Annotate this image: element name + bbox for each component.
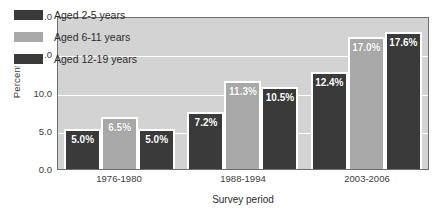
bar[interactable]: 7.2% <box>187 112 224 169</box>
legend-item[interactable]: Aged 2-5 years <box>12 8 137 22</box>
bar-value-label: 7.2% <box>189 117 222 128</box>
x-axis-title: Survey period <box>57 195 429 205</box>
legend-label: Aged 2-5 years <box>54 10 125 21</box>
legend-swatch-icon <box>12 8 45 22</box>
bar[interactable]: 6.5% <box>101 117 138 169</box>
x-axis-tick-label: 1988-1994 <box>181 174 305 184</box>
x-axis-tick-labels: 1976-19801988-19942003-2006 <box>57 174 429 184</box>
bar[interactable]: 5.0% <box>64 129 101 169</box>
bar-value-label: 5.0% <box>66 134 99 145</box>
legend-item[interactable]: Aged 12-19 years <box>12 52 137 66</box>
bar[interactable]: 17.6% <box>385 32 422 169</box>
bar[interactable]: 5.0% <box>138 129 175 169</box>
bar-value-label: 11.3% <box>226 86 259 97</box>
bar[interactable]: 10.5% <box>261 87 298 169</box>
legend-label: Aged 6-11 years <box>54 32 130 43</box>
legend-label: Aged 12-19 years <box>54 54 137 65</box>
legend-swatch-icon <box>12 52 45 66</box>
legend-item[interactable]: Aged 6-11 years <box>12 30 137 44</box>
x-axis-tick-label: 1976-1980 <box>57 174 181 184</box>
bar[interactable]: 12.4% <box>311 72 348 169</box>
y-axis-tick-label: 10.0 <box>18 89 52 99</box>
bar[interactable]: 17.0% <box>348 37 385 169</box>
bar-value-label: 6.5% <box>103 122 136 133</box>
x-axis-tick-label: 2003-2006 <box>305 174 429 184</box>
legend-swatch-icon <box>12 30 45 44</box>
bar-group: 12.4%17.0%17.6% <box>305 18 428 169</box>
chart-legend: Aged 2-5 yearsAged 6-11 yearsAged 12-19 … <box>12 8 137 66</box>
bar-value-label: 10.5% <box>263 92 296 103</box>
bar-group: 7.2%11.3%10.5% <box>181 18 304 169</box>
bar-value-label: 17.0% <box>350 42 383 53</box>
bar-value-label: 12.4% <box>313 77 346 88</box>
bar-chart: Percent % 0.05.010.015.020.0 5.0%6.5%5.0… <box>0 0 437 221</box>
bar-value-label: 5.0% <box>140 134 173 145</box>
y-axis-tick-label: 0.0 <box>18 165 52 175</box>
bar[interactable]: 11.3% <box>224 81 261 169</box>
bar-value-label: 17.6% <box>387 37 420 48</box>
y-axis-tick-label: 5.0 <box>18 127 52 137</box>
